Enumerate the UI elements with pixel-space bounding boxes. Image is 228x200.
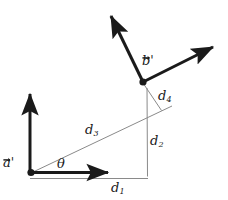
diagram-canvas [0,0,228,200]
vector-b-label: b ' [142,54,154,67]
vector-a-letter: a [3,155,11,170]
distance-d3-subscript: 3 [93,129,98,138]
vector-b-glyph-wrap: b [142,54,150,67]
origin-point-dot [27,169,34,176]
d2-vertical-line [147,88,148,177]
vector-b-letter: b [142,53,150,68]
vector-b-prime: ' [150,54,153,68]
vector-a-glyph-wrap: a [3,156,11,169]
angle-theta-label: θ [57,157,65,170]
distance-d1-subscript: 1 [119,187,124,196]
distance-d3-label: d3 [85,123,98,136]
vector-a-prime: ' [11,156,14,170]
distance-d1-label: d1 [111,181,124,194]
vector-a-label: a ' [3,156,14,169]
vector-diagram: a ' b ' θ d1 d2 d3 d4 [0,0,228,200]
vector-b-vertex-dot [139,78,146,85]
distance-d2-subscript: 2 [158,140,163,149]
vector-b-upleft-arrow [111,16,143,82]
distance-d2-label: d2 [150,134,163,147]
distance-d4-label: d4 [158,89,171,102]
distance-d4-subscript: 4 [166,95,171,104]
